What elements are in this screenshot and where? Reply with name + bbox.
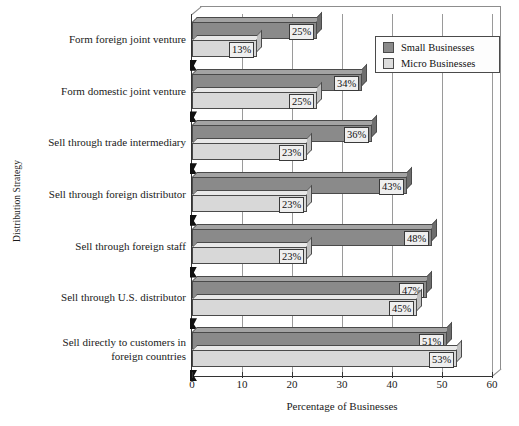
legend-swatch-icon-micro xyxy=(383,58,394,69)
legend-item-small-businesses: Small Businesses xyxy=(383,40,499,55)
backwall-right-edge xyxy=(500,6,501,369)
value-label-micro-6: 53% xyxy=(429,352,454,368)
value-label-micro-2: 23% xyxy=(279,145,304,161)
tick-label-20: 20 xyxy=(277,378,307,390)
category-label-0: Form foreign joint venture xyxy=(24,33,186,47)
category-label-line1: Sell through U.S. distributor xyxy=(24,291,186,305)
category-label-4: Sell through foreign staff xyxy=(24,240,186,254)
bar-side-face xyxy=(457,340,462,362)
bar-side-face xyxy=(407,167,412,189)
legend: Small Businesses Micro Businesses xyxy=(375,36,500,73)
x-axis-title: Percentage of Businesses xyxy=(192,400,492,412)
category-label-1: Form domestic joint venture xyxy=(24,85,186,99)
legend-item-micro-businesses: Micro Businesses xyxy=(383,56,499,71)
value-label-micro-3: 23% xyxy=(279,197,304,213)
category-label-2: Sell through trade intermediary xyxy=(24,136,186,150)
bar-front-face xyxy=(192,299,417,316)
value-label-small-0: 25% xyxy=(289,24,314,40)
value-label-small-1: 34% xyxy=(334,76,359,92)
y-axis-title: Distribution Strategy xyxy=(12,116,22,286)
bar-side-face xyxy=(257,30,262,52)
category-label-line2: foreign countries xyxy=(24,350,186,364)
value-label-micro-0: 13% xyxy=(229,42,254,58)
legend-label-small: Small Businesses xyxy=(401,42,474,53)
bar-side-face xyxy=(317,12,322,34)
category-label-line1: Sell through foreign staff xyxy=(24,240,186,254)
tick-label-40: 40 xyxy=(377,378,407,390)
value-label-micro-5: 45% xyxy=(389,301,414,317)
category-label-3: Sell through foreign distributor xyxy=(24,188,186,202)
category-label-line1: Sell through foreign distributor xyxy=(24,188,186,202)
bar-side-face xyxy=(362,64,367,86)
category-label-line1: Sell through trade intermediary xyxy=(24,136,186,150)
bar-side-face xyxy=(427,270,432,292)
bar-side-face xyxy=(307,133,312,155)
depth-line-bottom-right xyxy=(492,368,502,376)
tick-label-60: 60 xyxy=(477,378,507,390)
bar-side-face xyxy=(372,115,377,137)
bar-side-face xyxy=(417,288,422,310)
category-label-line1: Form foreign joint venture xyxy=(24,33,186,47)
tick-label-50: 50 xyxy=(427,378,457,390)
bar-front-face xyxy=(192,350,457,367)
bar-side-face xyxy=(447,322,452,344)
bar-side-face xyxy=(307,237,312,259)
value-label-micro-1: 25% xyxy=(289,94,314,110)
x-axis-ticks: 0102030405060 xyxy=(192,378,512,396)
bar-chart: Distribution Strategy Form foreign joint… xyxy=(0,0,519,426)
bar-side-face xyxy=(307,185,312,207)
category-label-list: Form foreign joint ventureForm domestic … xyxy=(24,14,186,376)
legend-swatch-icon-small xyxy=(383,42,394,53)
value-label-small-2: 36% xyxy=(344,127,369,143)
depth-line-top-left xyxy=(192,6,202,14)
value-label-micro-4: 23% xyxy=(279,249,304,265)
value-label-small-4: 48% xyxy=(404,231,429,247)
legend-label-micro: Micro Businesses xyxy=(401,58,475,69)
tick-label-10: 10 xyxy=(227,378,257,390)
category-label-line1: Sell directly to customers in xyxy=(24,336,186,350)
value-label-small-3: 43% xyxy=(379,179,404,195)
bar-side-face xyxy=(432,219,437,241)
category-label-line1: Form domestic joint venture xyxy=(24,85,186,99)
backwall-top-edge xyxy=(200,6,501,7)
category-label-5: Sell through U.S. distributor xyxy=(24,291,186,305)
bar-side-face xyxy=(317,82,322,104)
tick-label-0: 0 xyxy=(177,378,207,390)
category-label-6: Sell directly to customers inforeign cou… xyxy=(24,336,186,363)
tick-label-30: 30 xyxy=(327,378,357,390)
